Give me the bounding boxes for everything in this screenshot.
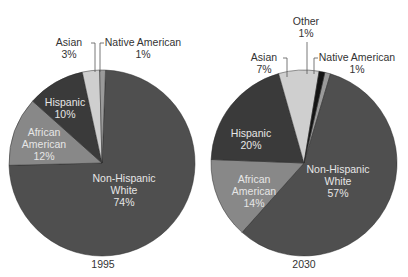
label-native-name-2030: Native American — [319, 51, 396, 63]
label-african-name1-1995: African — [28, 126, 61, 138]
leader-line-native-1995 — [100, 43, 104, 72]
label-asian-pct-2030: 7% — [256, 63, 271, 75]
pie-chart-2030: Other 1% Asian 7% Native American 1% His… — [211, 15, 397, 270]
label-other-name-2030: Other — [293, 15, 320, 27]
leader-line-asian-1995 — [91, 43, 95, 72]
label-hispanic-pct-1995: 10% — [54, 108, 75, 120]
label-native-pct-1995: 1% — [135, 48, 150, 60]
label-african-name1-2030: African — [238, 173, 271, 185]
label-hispanic-pct-2030: 20% — [240, 139, 261, 151]
label-african-name2-1995: American — [22, 138, 67, 150]
label-white-pct-1995: 74% — [113, 196, 134, 208]
label-asian-name-2030: Asian — [251, 51, 277, 63]
label-white-name1-1995: Non-Hispanic — [92, 172, 155, 184]
label-african-name2-2030: American — [232, 185, 277, 197]
label-african-pct-1995: 12% — [33, 150, 54, 162]
label-asian-name-1995: Asian — [56, 36, 82, 48]
year-label-2030: 2030 — [292, 258, 316, 270]
label-hispanic-name-2030: Hispanic — [231, 127, 271, 139]
label-white-name2-2030: White — [325, 175, 352, 187]
label-native-pct-2030: 1% — [349, 63, 364, 75]
label-native-name-1995: Native American — [105, 36, 182, 48]
label-white-pct-2030: 57% — [327, 187, 348, 199]
year-label-1995: 1995 — [91, 258, 115, 270]
label-white-name2-1995: White — [111, 184, 138, 196]
label-white-name1-2030: Non-Hispanic — [306, 163, 369, 175]
pie-chart-1995: Asian 3% Native American 1% Hispanic 10%… — [9, 36, 195, 270]
label-african-pct-2030: 14% — [243, 197, 264, 209]
label-asian-pct-1995: 3% — [61, 48, 76, 60]
pie-charts-canvas: Asian 3% Native American 1% Hispanic 10%… — [0, 0, 408, 277]
label-other-pct-2030: 1% — [298, 27, 313, 39]
label-hispanic-name-1995: Hispanic — [45, 96, 85, 108]
